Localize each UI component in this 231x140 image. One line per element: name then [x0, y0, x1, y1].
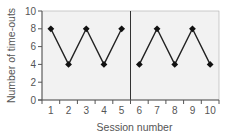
x-tick-label: 8 — [172, 105, 178, 116]
y-tick-label: 10 — [25, 6, 37, 17]
chart: 0246810 12345678910 Session number Numbe… — [0, 0, 231, 140]
y-tick-label: 4 — [30, 59, 36, 70]
x-tick-label: 3 — [83, 105, 89, 116]
x-tick-label: 10 — [205, 105, 217, 116]
x-tick-label: 6 — [137, 105, 143, 116]
x-tick-label: 9 — [190, 105, 196, 116]
y-tick-label: 2 — [30, 77, 36, 88]
x-axis-ticks: 12345678910 — [42, 100, 219, 116]
x-tick-label: 1 — [48, 105, 54, 116]
y-tick-label: 6 — [30, 41, 36, 52]
y-axis-ticks: 0246810 — [25, 6, 42, 106]
x-axis-label: Session number — [97, 121, 173, 133]
x-tick-label: 5 — [119, 105, 125, 116]
x-tick-label: 2 — [66, 105, 72, 116]
y-tick-label: 0 — [30, 95, 36, 106]
y-tick-label: 8 — [30, 23, 36, 34]
x-tick-label: 7 — [154, 105, 160, 116]
x-tick-label: 4 — [101, 105, 107, 116]
y-axis-label: Number of time-outs — [5, 8, 17, 103]
